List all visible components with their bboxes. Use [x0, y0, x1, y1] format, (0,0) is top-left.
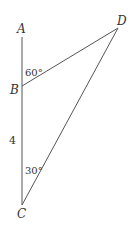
triangle-diagram: A B C D 60° 4 30°: [0, 0, 132, 227]
side-bc-label: 4: [9, 134, 16, 147]
label-c: C: [17, 207, 26, 221]
angle-30-label: 30°: [25, 165, 43, 176]
label-a: A: [16, 22, 26, 36]
line-cd: [22, 28, 118, 205]
label-d: D: [116, 14, 127, 28]
angle-60-label: 60°: [25, 67, 43, 78]
label-b: B: [9, 83, 19, 97]
